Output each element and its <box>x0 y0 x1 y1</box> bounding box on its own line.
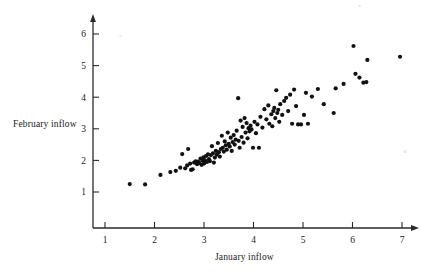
data-point <box>351 44 355 48</box>
x-tick-label: 4 <box>251 235 256 245</box>
data-point <box>244 121 248 125</box>
data-point <box>294 104 298 108</box>
data-point <box>284 96 288 100</box>
data-point <box>274 88 278 92</box>
data-point <box>216 141 220 145</box>
scatter-plot-figure: February inflow January inflow 1234567 1… <box>0 0 434 277</box>
data-point <box>241 125 245 129</box>
scan-speck <box>403 150 407 153</box>
data-point <box>232 133 236 137</box>
data-point <box>188 161 192 165</box>
y-tick-label: 5 <box>81 61 86 71</box>
data-point <box>128 182 132 186</box>
data-point <box>220 134 224 138</box>
data-point <box>306 122 310 126</box>
data-point <box>332 111 336 115</box>
data-point <box>322 102 326 106</box>
data-point <box>210 144 214 148</box>
data-point <box>143 182 147 186</box>
data-point <box>270 124 274 128</box>
data-point <box>286 109 290 113</box>
data-point <box>266 103 270 107</box>
data-point <box>272 106 276 110</box>
scan-speck <box>119 35 122 37</box>
data-point <box>364 80 368 84</box>
data-point <box>230 149 234 153</box>
data-point <box>316 87 320 91</box>
data-point <box>225 148 229 152</box>
data-point <box>235 129 239 133</box>
data-point <box>208 159 212 163</box>
data-point <box>334 86 338 90</box>
data-point <box>353 72 357 76</box>
x-tick-label: 3 <box>202 235 207 245</box>
y-tick-label: 3 <box>81 124 86 134</box>
y-axis-ticks: 123456 <box>81 29 99 197</box>
x-tick-label: 7 <box>400 235 405 245</box>
data-point <box>237 139 241 143</box>
y-axis-arrowhead <box>90 14 96 22</box>
data-point <box>223 139 227 143</box>
data-point <box>288 93 292 97</box>
data-point <box>233 143 237 147</box>
data-point <box>254 131 258 135</box>
x-axis-arrowhead <box>411 225 419 231</box>
data-point <box>277 120 281 124</box>
data-point <box>174 169 178 173</box>
data-point <box>276 108 280 112</box>
data-point <box>257 146 261 150</box>
data-point <box>239 118 243 122</box>
data-point <box>290 122 294 126</box>
data-point <box>251 146 255 150</box>
data-point <box>341 82 345 86</box>
data-point <box>248 124 252 128</box>
data-point <box>255 122 259 126</box>
y-tick-label: 4 <box>81 93 86 103</box>
x-tick-label: 1 <box>103 235 108 245</box>
x-tick-label: 2 <box>152 235 157 245</box>
data-point <box>178 166 182 170</box>
data-point <box>260 125 264 129</box>
data-point <box>280 113 284 117</box>
data-point <box>262 107 266 111</box>
x-tick-label: 5 <box>301 235 306 245</box>
data-point <box>168 170 172 174</box>
data-point <box>240 135 244 139</box>
data-point <box>212 161 216 165</box>
data-point <box>242 116 246 120</box>
data-point <box>273 116 277 120</box>
plot-canvas: 1234567 123456 <box>0 0 434 277</box>
data-point <box>365 58 369 62</box>
data-point <box>292 88 296 92</box>
x-tick-label: 6 <box>350 235 355 245</box>
data-point <box>398 55 402 59</box>
data-point <box>299 122 303 126</box>
data-point <box>310 94 314 98</box>
x-axis-ticks: 1234567 <box>103 222 405 245</box>
data-point <box>191 167 195 171</box>
data-point <box>226 130 230 134</box>
data-point <box>357 76 361 80</box>
data-point <box>243 130 247 134</box>
data-point <box>218 155 222 159</box>
scan-speck <box>358 5 361 7</box>
data-point <box>302 113 306 117</box>
data-point <box>278 102 282 106</box>
data-point <box>249 127 253 131</box>
data-point <box>236 96 240 100</box>
data-point <box>158 173 162 177</box>
data-point <box>228 144 232 148</box>
data-point <box>264 117 268 121</box>
data-point <box>180 152 184 156</box>
data-point-group <box>128 44 402 187</box>
y-tick-label: 6 <box>81 29 86 39</box>
y-tick-label: 1 <box>81 187 86 197</box>
data-point <box>258 115 262 119</box>
data-point <box>304 91 308 95</box>
data-point <box>245 136 249 140</box>
data-point <box>238 146 242 150</box>
y-tick-label: 2 <box>81 156 86 166</box>
data-point <box>242 141 246 145</box>
data-point <box>186 147 190 151</box>
